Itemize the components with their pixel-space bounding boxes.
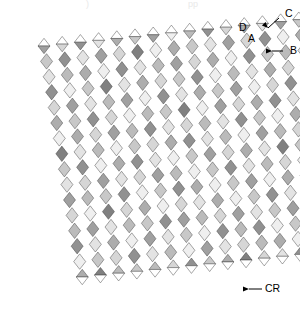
label-d-text: D bbox=[239, 21, 247, 33]
label-a-text: A bbox=[248, 32, 255, 44]
lattice-diagram: ) pp CDABCR bbox=[0, 0, 300, 321]
header-fragment-left: ) bbox=[86, 0, 89, 9]
label-a: A bbox=[248, 32, 255, 44]
header-fragment-right: pp bbox=[188, 0, 198, 9]
label-cr-text: CR bbox=[265, 282, 281, 294]
figure-root: ) pp CDABCR bbox=[0, 0, 300, 321]
label-b-text: B bbox=[290, 44, 297, 56]
label-c-text: C bbox=[285, 7, 293, 19]
label-d: D bbox=[239, 21, 247, 33]
